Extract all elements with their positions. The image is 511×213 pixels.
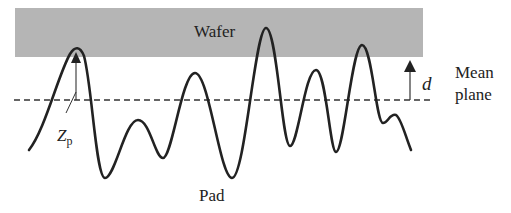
wafer-pad-contact-diagram: Wafer d Mean plane Zp Pad [0, 0, 511, 213]
zp-label: Zp [57, 127, 72, 144]
zp-leader-line [66, 92, 76, 113]
zp-label-subscript: p [66, 134, 72, 148]
mean-plane-label-line1: Mean [455, 64, 494, 81]
d-arrow-head [404, 60, 416, 72]
mean-plane-label-line2: plane [455, 86, 492, 103]
wafer-label: Wafer [194, 23, 235, 40]
pad-label: Pad [199, 187, 225, 204]
d-label: d [422, 74, 432, 93]
diagram-canvas [0, 0, 511, 213]
